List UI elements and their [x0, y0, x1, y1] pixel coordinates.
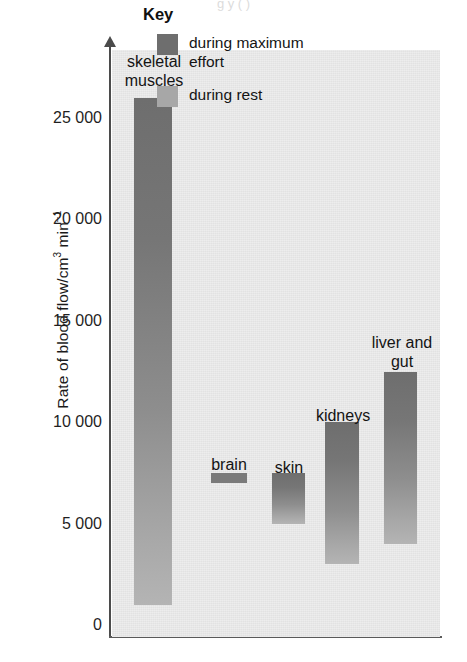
y-axis-tick-labels: 05 00010 00015 00020 00025 000 — [10, 0, 102, 662]
legend-label: during rest — [189, 85, 262, 104]
y-tick-label: 0 — [14, 616, 102, 634]
bar-skeletal-muscles — [134, 98, 172, 605]
y-tick-label: 20 000 — [14, 210, 102, 228]
y-axis-line — [109, 44, 111, 637]
legend-swatch-icon — [157, 86, 178, 107]
plot-area: skeletal musclesbrainskinkidneysliver an… — [112, 50, 440, 637]
bar-skin — [272, 473, 305, 524]
y-tick-label: 5 000 — [14, 515, 102, 533]
legend-entries: during maximum effortduring rest — [143, 33, 328, 107]
bar-label-skin: skin — [257, 458, 321, 477]
bar-label-liver-and-gut: liver and gut — [363, 333, 441, 371]
y-tick-label: 25 000 — [14, 109, 102, 127]
bar-label-kidneys: kidneys — [304, 406, 382, 425]
y-tick-label: 10 000 — [14, 413, 102, 431]
legend-swatch-icon — [157, 34, 178, 55]
legend-label: during maximum effort — [189, 33, 328, 71]
bar-brain — [211, 473, 247, 483]
legend-title: Key — [143, 5, 328, 24]
bar-liver-and-gut — [384, 372, 417, 544]
legend: Key during maximum effortduring rest — [143, 5, 328, 121]
y-tick-label: 15 000 — [14, 312, 102, 330]
bar-label-brain: brain — [193, 455, 265, 474]
legend-entry: during rest — [157, 85, 328, 107]
blood-flow-bar-chart-figure: g y ( ) Rate of blood flow/cm3 min−1 05 … — [0, 0, 467, 662]
bar-kidneys — [325, 422, 359, 564]
y-axis-arrowhead-icon — [104, 36, 116, 47]
legend-entry: during maximum effort — [157, 33, 328, 71]
